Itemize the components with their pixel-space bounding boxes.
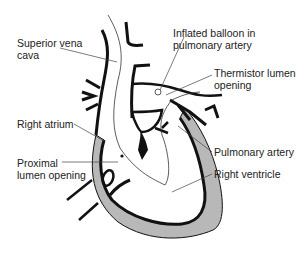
vessel-stub-left-2 (82, 92, 94, 100)
coronary-sinus (101, 169, 116, 187)
ivc-stub-2 (79, 203, 98, 220)
tricuspid-leaflet (110, 180, 130, 195)
vessel-stub-left-1 (86, 80, 100, 88)
heart-catheter-diagram: Superior vena cava Inflated balloon in p… (0, 0, 307, 255)
label-proximal-lumen: Proximal lumen opening (17, 157, 86, 181)
pulmonary-branch-3 (205, 106, 218, 118)
proximal-lumen-dot (120, 154, 123, 157)
label-right-atrium: Right atrium (17, 118, 74, 130)
septum (138, 130, 148, 160)
label-pulmonary-artery: Pulmonary artery (214, 146, 294, 158)
svc-right-wall (126, 22, 143, 46)
svc-left-wall (96, 30, 108, 135)
aorta-arch-left (132, 65, 150, 118)
label-thermistor-lumen: Thermistor lumen opening (214, 67, 296, 91)
label-right-ventricle: Right ventricle (214, 168, 281, 180)
vessel-stub-left-3 (86, 104, 98, 110)
ivc-stub-1 (67, 180, 92, 200)
pulmonary-artery-top (131, 83, 222, 95)
label-superior-vena-cava: Superior vena cava (17, 37, 82, 61)
label-inflated-balloon: Inflated balloon in pulmonary artery (173, 27, 255, 51)
